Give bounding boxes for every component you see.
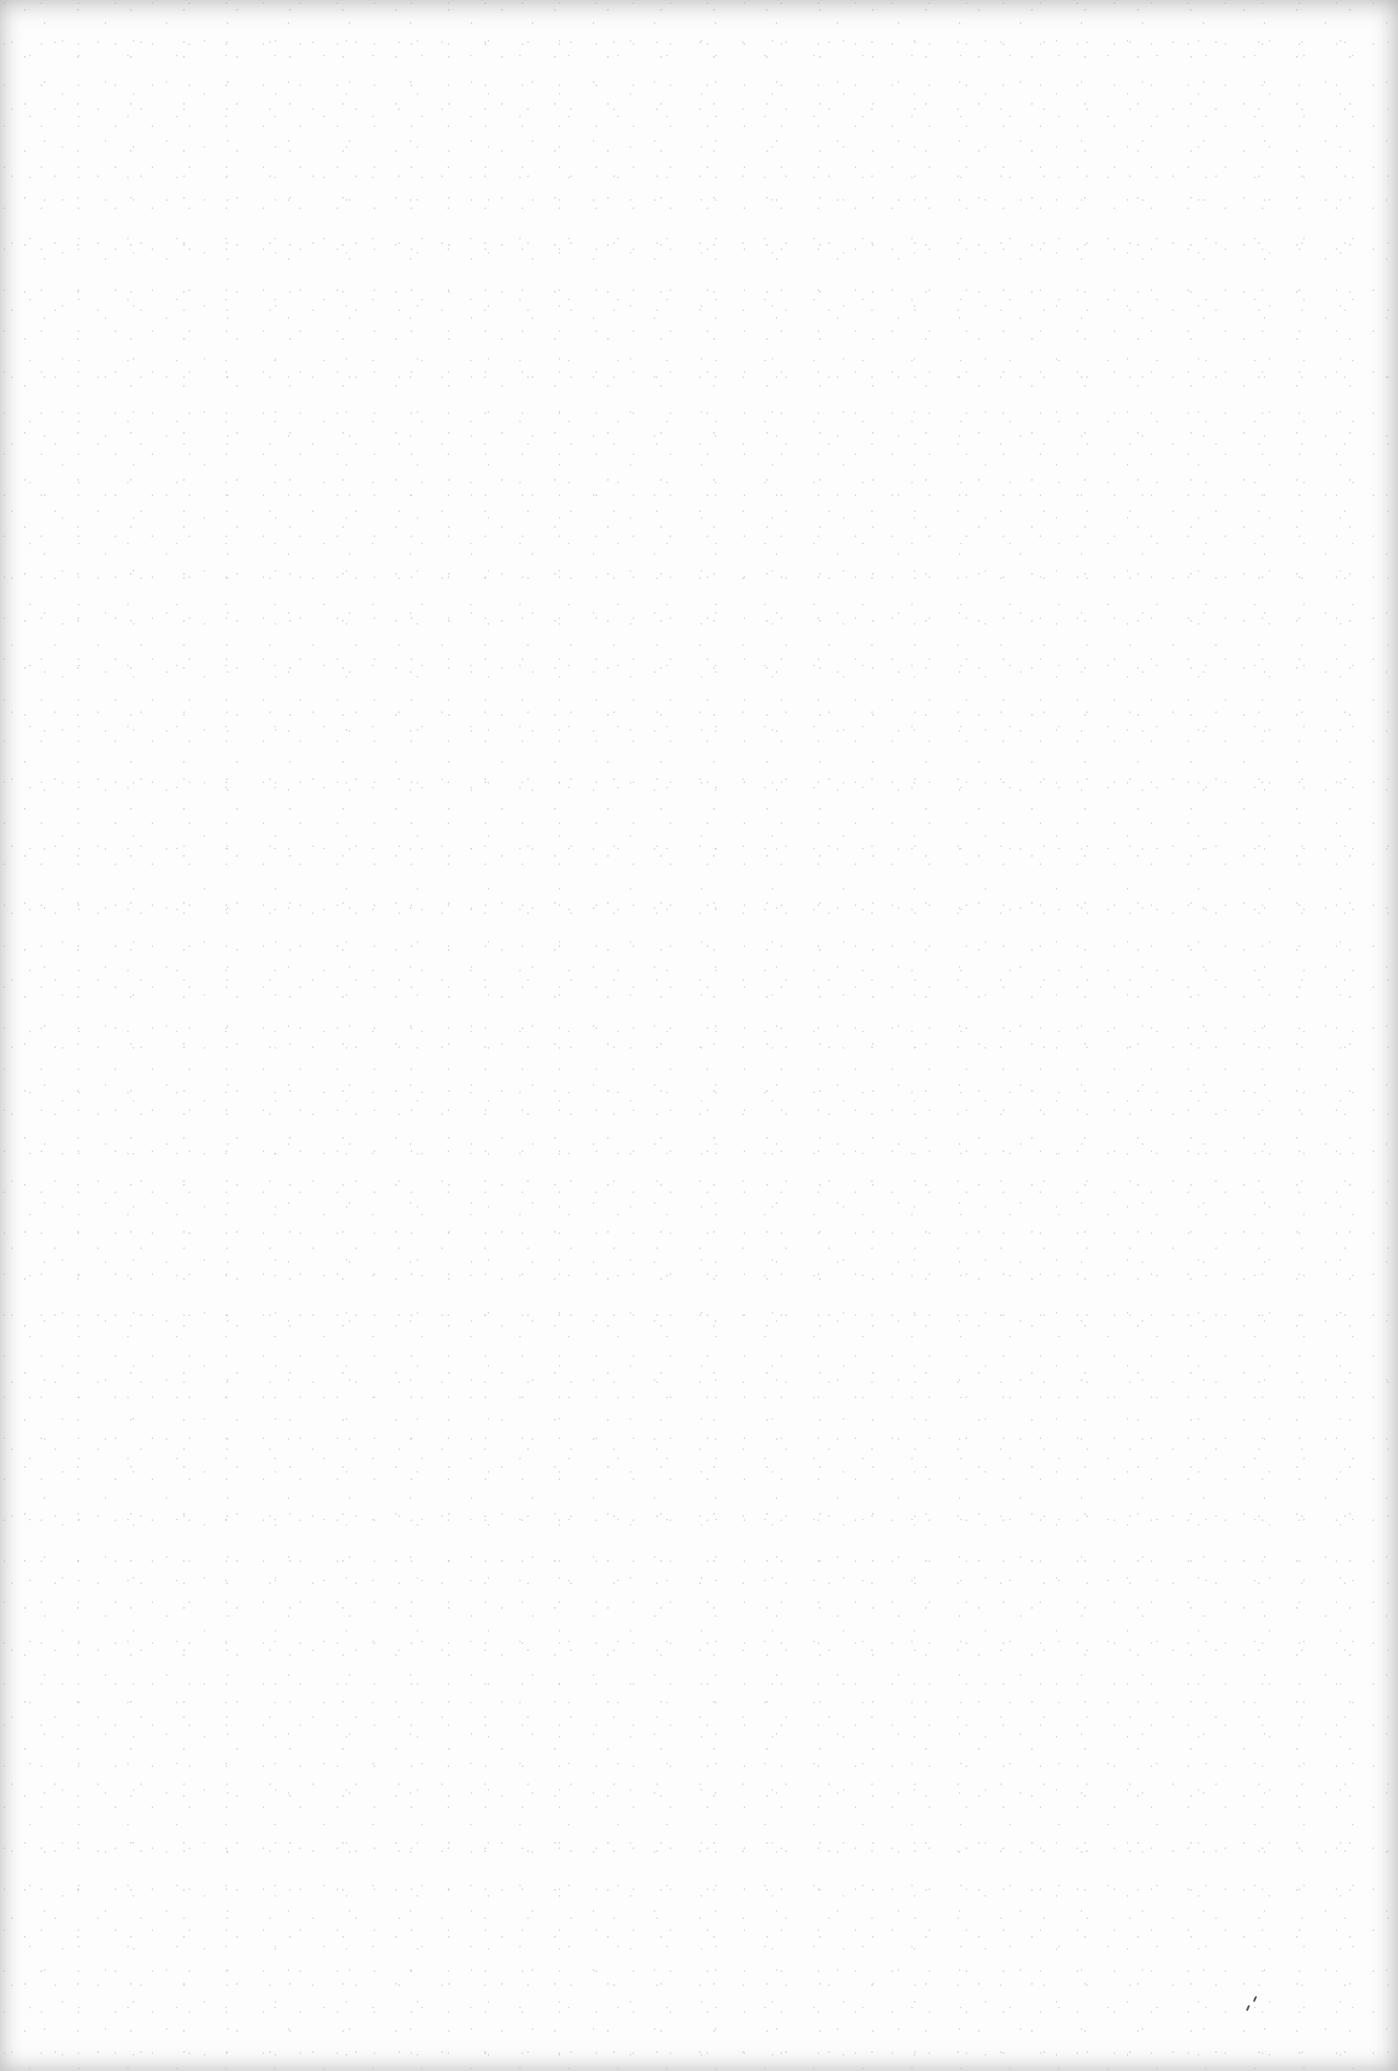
paper-grain bbox=[0, 0, 1398, 2071]
scan-edge-shadow bbox=[0, 0, 1398, 2071]
ink-speck bbox=[1246, 2005, 1250, 2011]
blank-page bbox=[0, 0, 1398, 2071]
ink-speck bbox=[1253, 1996, 1257, 2002]
